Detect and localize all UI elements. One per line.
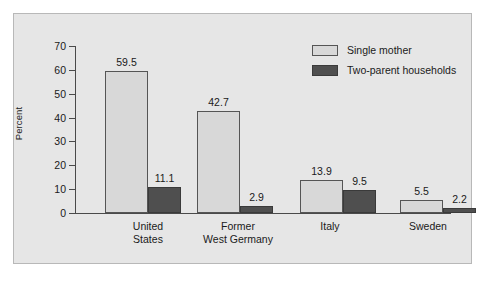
legend-label: Two-parent households (347, 65, 456, 76)
bar-value-label: 2.2 (435, 194, 484, 205)
y-axis-tick-label-wrap: 30 (16, 136, 66, 146)
y-axis-tick-label: 10 (22, 184, 66, 194)
y-axis-tick-label: 40 (22, 113, 66, 123)
bar-single-mother (105, 71, 148, 213)
y-axis-tick-label-wrap: 50 (16, 89, 66, 99)
category-label-line: Sweden (368, 220, 488, 233)
x-axis-line (75, 213, 451, 214)
y-axis-tick-label-wrap: 0 (16, 208, 66, 218)
y-axis-tick (69, 213, 75, 214)
bar-value-label: 59.5 (97, 57, 156, 68)
y-axis-tick-label-wrap: 40 (16, 113, 66, 123)
legend-swatch-icon (312, 65, 338, 76)
y-axis-tick-label: 70 (22, 41, 66, 51)
y-axis-tick (69, 141, 75, 142)
y-axis-tick (69, 46, 75, 47)
bar-value-label: 11.1 (140, 173, 189, 184)
legend-item: Single mother (312, 42, 456, 58)
y-axis-tick-label-wrap: 20 (16, 160, 66, 170)
bar-two-parent-households (240, 206, 273, 213)
y-axis-tick-label: 50 (22, 89, 66, 99)
bar-value-label: 13.9 (292, 166, 351, 177)
chart-figure: Percent 010203040506070 59.511.142.72.91… (0, 0, 490, 284)
y-axis-tick (69, 70, 75, 71)
bar-two-parent-households (148, 187, 181, 213)
y-axis-tick-label: 0 (22, 208, 66, 218)
y-axis-tick (69, 165, 75, 166)
y-axis-line (75, 46, 76, 214)
bar-value-label: 2.9 (232, 192, 281, 203)
y-axis-tick (69, 94, 75, 95)
bar-value-label: 9.5 (335, 176, 384, 187)
y-axis-tick-label-wrap: 10 (16, 184, 66, 194)
legend-label: Single mother (347, 45, 412, 56)
legend-item: Two-parent households (312, 62, 456, 78)
y-axis-tick-label-wrap: 60 (16, 65, 66, 75)
bar-value-label: 42.7 (189, 97, 248, 108)
y-axis-tick (69, 118, 75, 119)
y-axis-tick-label: 30 (22, 136, 66, 146)
y-axis-tick-label: 20 (22, 160, 66, 170)
category-label-line: West Germany (178, 233, 298, 246)
chart-legend: Single motherTwo-parent households (312, 42, 456, 82)
plot-area: Percent 010203040506070 59.511.142.72.91… (0, 0, 490, 284)
bar-two-parent-households (343, 190, 376, 213)
y-axis-tick-label-wrap: 70 (16, 41, 66, 51)
x-axis-category-label: Sweden (368, 220, 488, 233)
legend-swatch-icon (312, 45, 338, 56)
bar-two-parent-households (443, 208, 476, 213)
y-axis-tick-label: 60 (22, 65, 66, 75)
y-axis-tick (69, 189, 75, 190)
